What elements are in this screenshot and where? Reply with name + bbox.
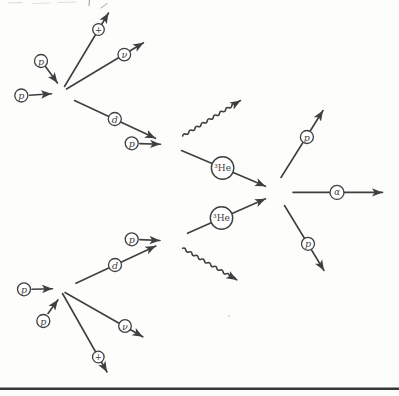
helium3-label: ³He — [213, 213, 230, 223]
proton-in-arrow — [30, 94, 52, 95]
reaction-pp-fusion-bottom: p p d ν + — [18, 246, 156, 372]
proton-label: p — [38, 56, 44, 67]
proton-label: p — [40, 316, 46, 327]
proton-label: p — [18, 90, 24, 101]
scan-speck — [228, 315, 230, 317]
scan-mark — [101, 4, 107, 9]
neutrino-label: ν — [121, 49, 127, 60]
neutrino-track — [67, 43, 144, 89]
scan-mark — [8, 3, 22, 4]
proton-in-arrow — [45, 66, 57, 83]
scan-mark — [89, 0, 90, 6]
proton-label: p — [129, 138, 135, 149]
deuteron-label: d — [112, 114, 118, 125]
scan-mark — [58, 2, 76, 3]
reaction-he3-collision: p α p — [281, 111, 383, 271]
proton-label: p — [305, 238, 311, 249]
gamma-wavy-track — [182, 247, 237, 280]
positron-label: + — [95, 352, 102, 362]
neutrino-label: ν — [122, 321, 128, 332]
diagram-canvas: p p + ν d p ³He p p d ν + — [0, 0, 399, 396]
proton-label: p — [304, 132, 310, 143]
scan-mark — [32, 3, 50, 4]
proton-in-arrow — [140, 240, 160, 241]
deuteron-label: d — [112, 260, 118, 271]
gamma-wavy-track — [182, 100, 241, 137]
reaction-pp-fusion-top: p p + ν d — [15, 13, 156, 138]
proton-out-track — [281, 111, 323, 178]
reaction-dp-fusion-top: p ³He — [125, 100, 265, 187]
proton-in-arrow — [48, 300, 58, 314]
reaction-dp-fusion-bottom: p ³He — [125, 199, 265, 281]
proton-label: p — [129, 234, 135, 245]
pp-chain-diagram: p p + ν d p ³He p p d ν + — [0, 0, 399, 396]
proton-label: p — [21, 284, 27, 295]
positron-label: + — [95, 25, 102, 35]
helium3-label: ³He — [214, 163, 231, 173]
alpha-label: α — [334, 187, 340, 197]
proton-in-arrow — [140, 144, 161, 145]
neutrino-track — [65, 293, 143, 337]
